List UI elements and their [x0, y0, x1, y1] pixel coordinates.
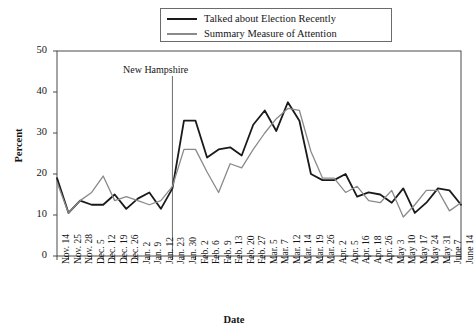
- x-tick-label: Feb. 20: [246, 236, 256, 265]
- x-tick-label: Nov. 25: [73, 234, 83, 264]
- legend-label-1: Summary Measure of Attention: [204, 28, 337, 40]
- annotation-new-hampshire: New Hampshire: [123, 64, 188, 75]
- x-axis-title: Date: [0, 314, 468, 325]
- axis-layer: [53, 51, 461, 260]
- x-tick-label: May 3: [396, 239, 406, 264]
- y-tick-label: 30: [23, 126, 47, 137]
- x-tick-label: Jan. 23: [176, 237, 186, 264]
- x-tick-label: Feb. 13: [234, 236, 244, 265]
- y-tick-label: 0: [23, 249, 47, 260]
- y-tick-label: 40: [23, 85, 47, 96]
- y-tick-label: 10: [23, 208, 47, 219]
- x-tick-label: Dec. 12: [107, 234, 117, 264]
- x-tick-label: Jan. 9: [153, 242, 163, 264]
- legend-entry-1: Summary Measure of Attention: [167, 27, 385, 41]
- chart-legend: Talked about Election Recently Summary M…: [160, 8, 392, 42]
- x-tick-label: Feb. 27: [257, 236, 267, 265]
- y-tick-label: 50: [23, 44, 47, 55]
- x-tick-label: June 7: [453, 239, 463, 264]
- x-tick-label: Apr. 2: [338, 240, 348, 264]
- x-tick-label: Mar. 5: [269, 239, 279, 264]
- x-tick-label: May 31: [442, 235, 452, 264]
- x-tick-label: Feb. 2: [200, 240, 210, 264]
- y-axis-title: Percent: [13, 116, 24, 176]
- x-tick-label: Jan. 2: [142, 242, 152, 264]
- x-tick-label: Dec. 5: [96, 239, 106, 264]
- x-tick-label: May 17: [419, 235, 429, 264]
- x-tick-label: Dec. 19: [119, 234, 129, 264]
- legend-entry-0: Talked about Election Recently: [167, 12, 385, 26]
- series-layer: [57, 102, 461, 217]
- x-tick-label: Nov. 14: [61, 234, 71, 264]
- x-tick-label: June 14: [465, 235, 475, 264]
- y-tick-label: 20: [23, 167, 47, 178]
- x-tick-label: Apr. 26: [384, 236, 394, 265]
- x-tick-label: Jan. 30: [188, 237, 198, 264]
- x-tick-label: May 24: [430, 235, 440, 264]
- x-tick-label: Apr. 16: [361, 236, 371, 265]
- legend-swatch-talked-about-election: [167, 18, 197, 20]
- legend-label-0: Talked about Election Recently: [204, 13, 336, 25]
- series-line-0: [57, 102, 461, 213]
- series-line-1: [57, 108, 461, 217]
- x-tick-label: Dec. 26: [130, 234, 140, 264]
- x-tick-label: Mar. 7: [280, 239, 290, 264]
- x-tick-label: Feb. 9: [223, 240, 233, 264]
- x-tick-label: Mar. 19: [315, 234, 325, 264]
- x-tick-label: Feb. 6: [211, 240, 221, 264]
- x-tick-label: Apr. 18: [373, 236, 383, 265]
- x-tick-label: Mar. 14: [303, 234, 313, 264]
- x-tick-label: Mar. 26: [326, 234, 336, 264]
- x-tick-label: Mar. 12: [292, 234, 302, 264]
- x-tick-label: May 10: [407, 235, 417, 264]
- x-tick-label: Nov. 28: [84, 234, 94, 264]
- x-tick-label: Jan. 12: [165, 237, 175, 264]
- legend-swatch-summary-measure: [167, 33, 197, 35]
- x-tick-label: Apr. 5: [350, 240, 360, 264]
